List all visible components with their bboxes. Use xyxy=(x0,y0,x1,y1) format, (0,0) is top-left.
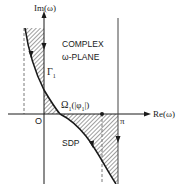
plane-title-line1: COMPLEX xyxy=(62,39,104,49)
origin-label: O xyxy=(35,116,42,126)
pi-label: π xyxy=(120,116,125,126)
plane-title-line2: ω-PLANE xyxy=(62,52,100,62)
gamma1-label: Γ1 xyxy=(47,66,56,79)
omega1-label: Ω1(|φ1|) xyxy=(61,99,89,112)
complex-plane-diagram: Im(ω) Re(ω) O π COMPLEX ω-PLANE Γ1 Ω1(|φ… xyxy=(0,0,177,184)
hatched-region-upper xyxy=(25,28,44,90)
real-axis-arrow-icon xyxy=(144,112,151,117)
sdp-label: SDP xyxy=(62,138,80,148)
imag-axis-label: Im(ω) xyxy=(34,3,56,13)
real-axis-label: Re(ω) xyxy=(153,109,175,119)
saddle-point xyxy=(100,112,104,116)
